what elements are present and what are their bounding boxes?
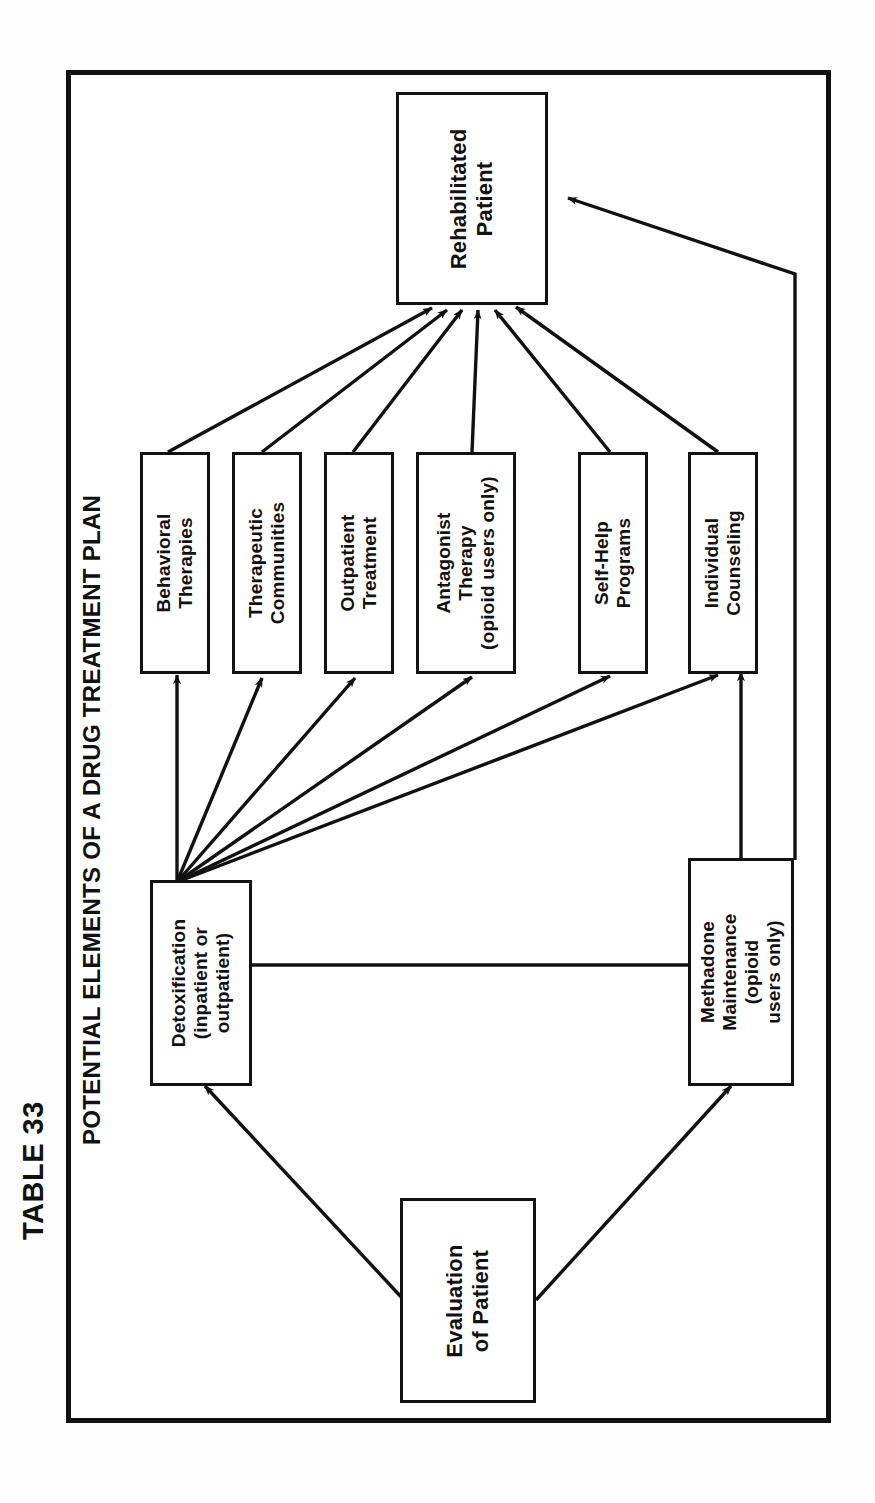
node-outpatient-treatment-label: OutpatientTreatment	[337, 515, 381, 612]
node-individual-counseling-label: IndividualCounseling	[701, 510, 745, 615]
node-therapeutic-communities-label: TherapeuticCommunities	[245, 502, 289, 625]
node-outpatient-treatment[interactable]: OutpatientTreatment	[324, 452, 394, 674]
node-detoxification[interactable]: Detoxification(inpatient oroutpatient)	[150, 880, 252, 1086]
page-canvas: TABLE 33 POTENTIAL ELEMENTS OF A DRUG TR…	[0, 0, 875, 1503]
table-number-label: TABLE 33	[10, 940, 56, 1240]
node-evaluation-of-patient-label: Evaluationof Patient	[442, 1244, 493, 1357]
node-antagonist-therapy-label: AntagonistTherapy(opioid users only)	[433, 476, 499, 650]
node-rehabilitated-patient-label: RehabilitatedPatient	[446, 128, 497, 269]
node-behavioral-therapies-label: BehavioralTherapies	[153, 513, 197, 612]
node-behavioral-therapies[interactable]: BehavioralTherapies	[140, 452, 210, 674]
node-therapeutic-communities[interactable]: TherapeuticCommunities	[232, 452, 302, 674]
diagram-title: POTENTIAL ELEMENTS OF A DRUG TREATMENT P…	[72, 355, 112, 1145]
node-evaluation-of-patient[interactable]: Evaluationof Patient	[400, 1198, 536, 1403]
node-methadone-maintenance[interactable]: MethadoneMaintenance(opioidusers only)	[688, 858, 794, 1086]
node-self-help-programs[interactable]: Self-HelpPrograms	[578, 452, 648, 674]
node-antagonist-therapy[interactable]: AntagonistTherapy(opioid users only)	[416, 452, 516, 674]
node-methadone-maintenance-label: MethadoneMaintenance(opioidusers only)	[697, 913, 785, 1030]
node-detoxification-label: Detoxification(inpatient oroutpatient)	[168, 919, 234, 1047]
node-individual-counseling[interactable]: IndividualCounseling	[688, 452, 758, 674]
node-self-help-programs-label: Self-HelpPrograms	[591, 518, 635, 608]
node-rehabilitated-patient[interactable]: RehabilitatedPatient	[396, 92, 548, 305]
